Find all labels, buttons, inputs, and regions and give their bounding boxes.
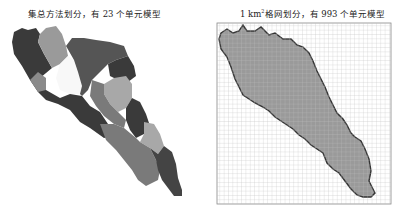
- title-suffix: 格网划分，有 993 个单元模型: [265, 9, 386, 19]
- left-panel-title: 集总方法划分，有 23 个单元模型: [28, 7, 161, 19]
- right-panel-title: 1 km2格网划分，有 993 个单元模型: [240, 7, 385, 19]
- title-prefix: 1 km: [240, 9, 261, 19]
- lumped-basin-map: [0, 20, 200, 210]
- grid-basin-map: [215, 21, 395, 207]
